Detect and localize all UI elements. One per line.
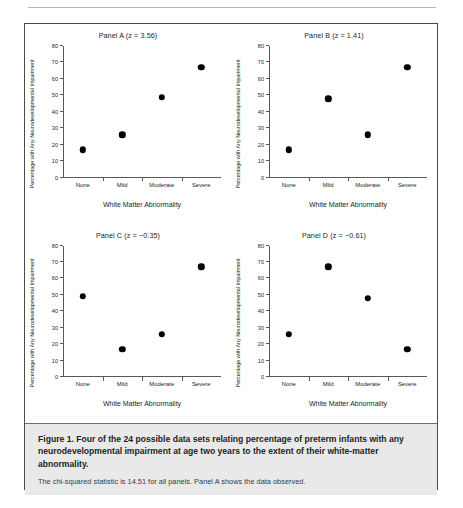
- page-top-rule: [28, 7, 436, 8]
- panel-c-data-point-moderate: [159, 331, 165, 337]
- panel-d-y-tick-label: 20: [258, 341, 264, 347]
- panel-a-data-point-none: [80, 146, 86, 152]
- panel-b-y-tick: [266, 127, 270, 128]
- panel-c-y-tick: [60, 376, 64, 377]
- panel-b-y-tick: [266, 160, 270, 161]
- caption-note: The chi-squared statistic is 14.51 for a…: [38, 477, 424, 487]
- panel-b-x-tick: [388, 178, 389, 182]
- panel-d-y-tick-label: 50: [258, 292, 264, 298]
- panel-d-data-point-none: [286, 331, 292, 337]
- panel-d-title: Panel D (z = −0.61): [231, 231, 437, 240]
- panel-c: Panel C (z = −0.35)Percentage with Any N…: [25, 224, 231, 424]
- panel-d-y-tick: [266, 376, 270, 377]
- panel-c-y-tick: [60, 327, 64, 328]
- panel-a-x-tick-label: None: [76, 182, 90, 188]
- panel-b-x-tick-label: None: [282, 182, 296, 188]
- panel-a-y-tick: [60, 127, 64, 128]
- panel-b-x-axis-label: White Matter Abnormality: [269, 201, 427, 208]
- panel-d-y-tick: [266, 261, 270, 262]
- panel-a-y-tick: [60, 61, 64, 62]
- panel-c-y-tick-label: 80: [52, 243, 58, 249]
- panel-c-y-tick-label: 0: [55, 374, 58, 380]
- panel-b-x-tick-label: Mild: [323, 182, 334, 188]
- panel-b-y-tick-label: 0: [261, 175, 264, 181]
- panel-a-title: Panel A (z = 3.56): [25, 31, 231, 40]
- panel-a: Panel A (z = 3.56)Percentage with Any Ne…: [25, 24, 231, 224]
- panel-a-y-tick: [60, 177, 64, 178]
- panel-b: Panel B (z = 1.41)Percentage with Any Ne…: [231, 24, 437, 224]
- panel-d-y-axis-line: [269, 246, 270, 378]
- panel-c-x-tick-label: Mild: [117, 381, 128, 387]
- panel-a-x-tick-label: Moderate: [149, 182, 174, 188]
- panel-b-data-point-none: [286, 146, 292, 152]
- panel-b-y-tick: [266, 144, 270, 145]
- panel-a-x-tick: [103, 178, 104, 182]
- panel-c-data-point-severe: [198, 264, 204, 270]
- panel-c-y-tick: [60, 343, 64, 344]
- panel-d-y-tick-label: 30: [258, 325, 264, 331]
- panel-b-y-tick-label: 80: [258, 43, 264, 49]
- panel-b-y-tick-label: 60: [258, 76, 264, 82]
- panel-c-y-tick-label: 20: [52, 341, 58, 347]
- panel-d-x-tick: [309, 377, 310, 381]
- panel-d-y-tick: [266, 245, 270, 246]
- panel-d-y-tick-label: 60: [258, 275, 264, 281]
- panel-b-y-tick: [266, 177, 270, 178]
- panel-a-x-tick: [182, 178, 183, 182]
- panel-a-data-point-mild: [119, 132, 125, 138]
- panel-c-y-tick-label: 70: [52, 259, 58, 265]
- panel-c-x-tick: [103, 377, 104, 381]
- panel-c-y-tick: [60, 277, 64, 278]
- panel-b-x-tick: [309, 178, 310, 182]
- panel-a-y-tick-label: 20: [52, 142, 58, 148]
- panel-a-x-tick-label: Mild: [117, 182, 128, 188]
- panel-a-y-tick-label: 10: [52, 158, 58, 164]
- panel-c-x-tick-label: Severe: [192, 381, 211, 387]
- panel-d-x-tick-label: None: [282, 381, 296, 387]
- panel-c-y-tick-label: 50: [52, 292, 58, 298]
- caption-title: Figure 1. Four of the 24 possible data s…: [38, 433, 424, 470]
- panel-d-y-tick-label: 80: [258, 243, 264, 249]
- panel-a-y-tick: [60, 144, 64, 145]
- figure-caption: Figure 1. Four of the 24 possible data s…: [25, 423, 437, 495]
- panel-a-y-tick: [60, 94, 64, 95]
- panel-d-data-point-mild: [325, 264, 331, 270]
- panel-a-y-tick-label: 40: [52, 109, 58, 115]
- panel-a-y-tick: [60, 160, 64, 161]
- panel-a-plot-area: 01020304050607080NoneMildModerateSevere: [63, 46, 221, 178]
- panel-d-y-tick: [266, 327, 270, 328]
- panel-d-y-tick-label: 10: [258, 358, 264, 364]
- panel-c-x-tick-label: None: [76, 381, 90, 387]
- panel-c-x-tick: [142, 377, 143, 381]
- panel-c-data-point-mild: [119, 346, 125, 352]
- panel-b-y-tick-label: 30: [258, 125, 264, 131]
- panel-b-x-tick: [348, 178, 349, 182]
- panel-b-y-tick: [266, 78, 270, 79]
- panel-c-data-point-none: [80, 293, 86, 299]
- panel-b-title: Panel B (z = 1.41): [231, 31, 437, 40]
- panel-b-data-point-severe: [404, 64, 410, 70]
- panel-a-y-tick-label: 60: [52, 76, 58, 82]
- panel-a-y-tick-label: 0: [55, 175, 58, 181]
- panel-a-y-tick-label: 80: [52, 43, 58, 49]
- panel-d-x-tick: [348, 377, 349, 381]
- panel-b-x-tick-label: Severe: [398, 182, 417, 188]
- panel-a-y-tick-label: 30: [52, 125, 58, 131]
- panel-c-y-tick: [60, 360, 64, 361]
- panel-a-y-tick: [60, 45, 64, 46]
- panel-b-y-tick-label: 20: [258, 142, 264, 148]
- panel-a-y-axis-line: [63, 46, 64, 178]
- panel-d-y-tick: [266, 343, 270, 344]
- panel-d-y-tick-label: 70: [258, 259, 264, 265]
- panel-d-y-tick: [266, 294, 270, 295]
- panel-a-y-tick: [60, 111, 64, 112]
- panel-d-x-tick-label: Moderate: [355, 381, 380, 387]
- panel-d-y-tick: [266, 310, 270, 311]
- panel-grid: Panel A (z = 3.56)Percentage with Any Ne…: [25, 24, 437, 423]
- panel-c-x-tick-label: Moderate: [149, 381, 174, 387]
- panel-d-x-tick-label: Mild: [323, 381, 334, 387]
- panel-a-y-tick-label: 70: [52, 59, 58, 65]
- panel-b-y-tick-label: 70: [258, 59, 264, 65]
- panel-d-x-tick-label: Severe: [398, 381, 417, 387]
- panel-d-y-tick: [266, 277, 270, 278]
